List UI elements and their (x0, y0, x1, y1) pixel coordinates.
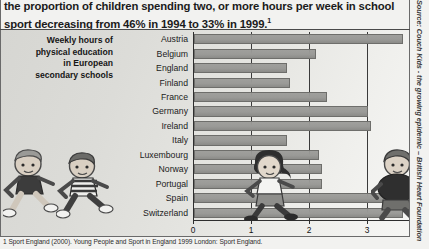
category-label-luxembourg: Luxembourg (140, 149, 188, 161)
x-tick-0 (193, 220, 194, 224)
bar-france (194, 92, 327, 102)
x-tick-2 (309, 220, 310, 224)
bar-ireland (194, 121, 371, 131)
running-child-right (371, 148, 409, 220)
horizontal-rule-bottom (0, 236, 410, 237)
page-root: the proportion of children spending two,… (0, 0, 429, 249)
chart-title-line-2: physical education (9, 47, 113, 59)
category-label-spain: Spain (166, 192, 188, 204)
chart-title-line-4: secondary schools (9, 70, 113, 82)
running-child-center (241, 149, 299, 221)
x-tick-label-3: 3 (365, 225, 370, 235)
x-axis-line (193, 220, 409, 221)
chart-panel: Weekly hours of physical education in Eu… (1, 30, 409, 236)
running-child-left-2 (56, 150, 114, 220)
bar-finland (194, 78, 290, 88)
category-label-switzerland: Switzerland (143, 207, 188, 219)
footnote-marker: 1 (267, 17, 271, 24)
category-label-finland: Finland (160, 77, 189, 89)
category-label-germany: Germany (152, 105, 188, 117)
category-axis-labels: AustriaBelgiumEnglandFinlandFranceGerman… (113, 30, 191, 218)
category-label-belgium: Belgium (157, 48, 188, 60)
bar-belgium (194, 49, 316, 59)
category-label-norway: Norway (159, 163, 188, 175)
intro-paragraph: the proportion of children spending two,… (4, 0, 400, 31)
chart-title-line-1: Weekly hours of (9, 35, 113, 47)
source-credit: Source: Couch Kids - the growing epidemi… (410, 0, 424, 237)
category-label-ireland: Ireland (161, 120, 188, 132)
category-label-portugal: Portugal (156, 178, 188, 190)
bar-italy (194, 135, 287, 145)
x-tick-label-2: 2 (307, 225, 312, 235)
intro-paragraph-text: the proportion of children spending two,… (4, 0, 394, 29)
x-tick-label-1: 1 (249, 225, 254, 235)
x-tick-label-0: 0 (191, 225, 196, 235)
category-label-austria: Austria (161, 33, 188, 45)
chart-title: Weekly hours of physical education in Eu… (9, 35, 113, 81)
bar-austria (194, 34, 403, 44)
category-label-england: England (156, 62, 188, 74)
bar-germany (194, 106, 368, 116)
running-child-left-1 (3, 148, 59, 220)
x-tick-3 (367, 220, 368, 224)
bar-england (194, 63, 287, 73)
footnote-text: 1 Sport England (2000). Young People and… (3, 238, 423, 245)
category-label-italy: Italy (172, 134, 188, 146)
category-label-france: France (161, 91, 188, 103)
chart-title-line-3: in European (9, 58, 113, 70)
